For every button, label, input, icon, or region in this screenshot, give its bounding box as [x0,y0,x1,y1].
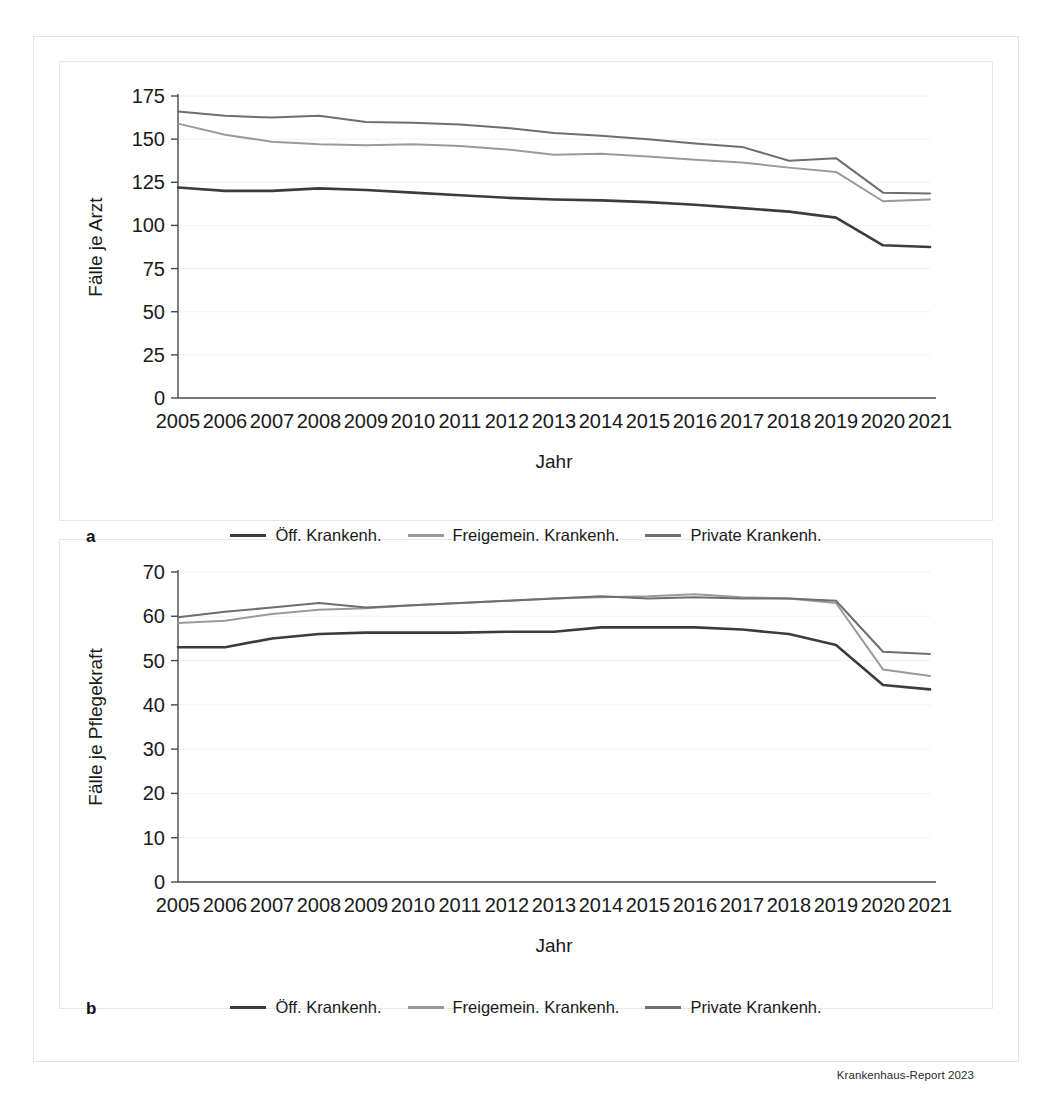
svg-text:2011: 2011 [438,894,481,916]
legend-item-label: Öff. Krankenh. [275,526,381,545]
svg-text:2019: 2019 [814,894,859,916]
series-line [178,627,930,689]
svg-text:2015: 2015 [626,894,671,916]
legend-item[interactable]: Freigemein. Krankenh. [408,526,620,545]
legend-item[interactable]: Private Krankenh. [645,998,821,1017]
legend-item-label: Private Krankenh. [690,526,821,545]
svg-text:2007: 2007 [250,894,295,916]
svg-text:2013: 2013 [532,894,577,916]
legend-item-label: Öff. Krankenh. [275,998,381,1017]
svg-text:2020: 2020 [861,894,906,916]
svg-text:10: 10 [143,827,165,849]
svg-text:2020: 2020 [861,410,906,432]
svg-text:60: 60 [143,605,165,627]
svg-text:2018: 2018 [767,410,812,432]
legend-item[interactable]: Private Krankenh. [645,526,821,545]
svg-text:75: 75 [143,258,165,280]
svg-text:2005: 2005 [156,894,201,916]
svg-text:2007: 2007 [250,410,295,432]
svg-text:2011: 2011 [438,410,481,432]
svg-text:2017: 2017 [720,410,765,432]
series-line [178,187,930,247]
svg-text:2017: 2017 [720,894,765,916]
svg-text:2021: 2021 [908,894,953,916]
svg-text:2014: 2014 [579,410,624,432]
legend-line-swatch-icon [408,1006,444,1009]
svg-text:2008: 2008 [297,410,342,432]
line-chart-a: 0255075100125150175200520062007200820092… [60,62,992,520]
svg-text:2010: 2010 [391,894,436,916]
figure-frame: 0255075100125150175200520062007200820092… [33,36,1019,1062]
svg-text:125: 125 [132,171,165,193]
svg-text:25: 25 [143,344,165,366]
svg-text:2012: 2012 [485,894,530,916]
legend-item[interactable]: Öff. Krankenh. [230,526,381,545]
legend-line-swatch-icon [230,1006,266,1009]
svg-text:2013: 2013 [532,410,577,432]
svg-text:0: 0 [154,871,165,893]
plot-area-a: 0255075100125150175200520062007200820092… [60,62,992,520]
svg-text:2016: 2016 [673,410,718,432]
legend-item-label: Freigemein. Krankenh. [453,526,620,545]
legend-item[interactable]: Freigemein. Krankenh. [408,998,620,1017]
svg-text:150: 150 [132,128,165,150]
svg-text:2009: 2009 [344,894,389,916]
series-line [178,596,930,654]
svg-text:175: 175 [132,85,165,107]
svg-text:2006: 2006 [203,894,248,916]
chart-panel-a: 0255075100125150175200520062007200820092… [59,61,993,521]
svg-text:100: 100 [132,214,165,236]
svg-text:2016: 2016 [673,894,718,916]
chart-panel-b: 0102030405060702005200620072008200920102… [59,539,993,1009]
svg-text:50: 50 [143,301,165,323]
legend-line-swatch-icon [645,534,681,537]
legend-item-label: Freigemein. Krankenh. [453,998,620,1017]
svg-text:2021: 2021 [908,410,953,432]
legend-item-label: Private Krankenh. [690,998,821,1017]
plot-area-b: 0102030405060702005200620072008200920102… [60,540,992,1008]
svg-text:2019: 2019 [814,410,859,432]
svg-text:Jahr: Jahr [536,451,574,472]
svg-text:2005: 2005 [156,410,201,432]
legend-line-swatch-icon [645,1006,681,1009]
source-note: Krankenhaus-Report 2023 [837,1069,974,1081]
svg-text:30: 30 [143,738,165,760]
svg-text:50: 50 [143,650,165,672]
svg-text:20: 20 [143,782,165,804]
svg-text:2010: 2010 [391,410,436,432]
svg-text:2009: 2009 [344,410,389,432]
svg-text:Fälle je Pflegekraft: Fälle je Pflegekraft [85,648,106,806]
svg-text:40: 40 [143,694,165,716]
line-chart-b: 0102030405060702005200620072008200920102… [60,540,992,1008]
legend-chart-b: Öff. Krankenh. Freigemein. Krankenh. Pri… [34,998,1018,1017]
svg-text:Fälle je Arzt: Fälle je Arzt [85,197,106,297]
legend-line-swatch-icon [408,534,444,537]
svg-text:2015: 2015 [626,410,671,432]
svg-text:70: 70 [143,561,165,583]
svg-text:2006: 2006 [203,410,248,432]
legend-chart-a: Öff. Krankenh. Freigemein. Krankenh. Pri… [34,526,1018,545]
svg-text:2012: 2012 [485,410,530,432]
legend-item[interactable]: Öff. Krankenh. [230,998,381,1017]
series-line [178,112,930,194]
svg-text:2008: 2008 [297,894,342,916]
svg-text:2014: 2014 [579,894,624,916]
svg-text:0: 0 [154,387,165,409]
legend-line-swatch-icon [230,534,266,537]
svg-text:Jahr: Jahr [536,935,574,956]
svg-text:2018: 2018 [767,894,812,916]
